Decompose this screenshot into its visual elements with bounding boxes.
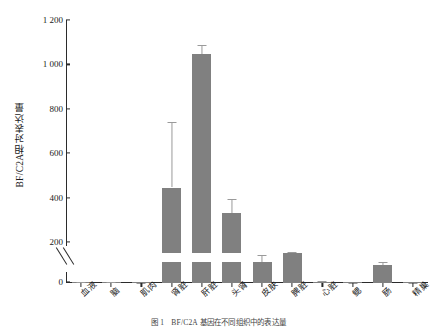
error-bar [171,122,172,187]
y-axis-tick-label: 600 [50,148,67,158]
error-bar-cap [378,262,387,263]
bar-group[interactable] [102,21,121,283]
y-axis-line [66,20,67,283]
bar [373,265,392,283]
figure-caption: 图 1 BF/C2A 基因在不同组织中的表达量 [0,316,437,327]
y-axis-tick: 1 000 [43,59,66,69]
y-axis-title-text: BF/C2A相对表达量 [13,102,27,188]
error-bar-cap [258,255,267,256]
bar-group[interactable] [253,21,272,283]
y-axis-tick: 1 200 [43,15,66,25]
error-bar-cap [227,199,236,200]
error-bar-cap [167,122,176,123]
y-axis-tick-mark [66,153,70,154]
bar-group[interactable] [132,21,151,283]
y-axis-tick-label: 800 [50,104,67,114]
bar-group[interactable] [343,21,362,283]
y-axis-tick-mark [66,241,70,242]
error-bar-cap [288,252,297,253]
y-axis-tick-mark [66,197,70,198]
plot-area: 02004006008001 0001 200 血液脑肌肉肾脏肝脏头肾皮肤脾脏心… [66,20,428,283]
x-axis-label-9: 鳃 [349,283,364,298]
bar-group[interactable] [283,21,302,283]
y-axis-tick: 800 [50,104,67,114]
bar-upper-segment [162,188,181,254]
x-axis-label-1: 脑 [107,283,122,298]
y-axis-tick: 400 [50,193,67,203]
error-bar-cap [197,45,206,46]
bar-group[interactable] [222,21,241,283]
y-axis-tick: 600 [50,148,67,158]
bar-upper-segment [192,54,211,253]
y-axis-tick-mark [66,108,70,109]
error-bar [201,45,202,54]
y-axis-tick: 0 [59,277,67,287]
y-axis-tick-label: 0 [59,277,67,287]
bar-upper-segment [222,213,241,253]
bar-group[interactable] [313,21,332,283]
y-axis-tick-mark [66,281,70,282]
bar-group[interactable] [72,21,91,283]
bar-group[interactable] [162,21,181,283]
y-axis-title: BF/C2A相对表达量 [10,0,30,290]
y-axis-tick-label: 400 [50,193,67,203]
y-axis-tick-label: 1 200 [43,15,66,25]
y-axis-tick-mark [66,64,70,65]
x-axis-label-10: 肠 [379,283,394,298]
y-axis-tick-mark [66,19,70,20]
bar-group[interactable] [192,21,211,283]
error-bar [231,199,232,213]
bar-group[interactable] [373,21,392,283]
y-axis-tick-label: 1 000 [43,59,66,69]
bar-group[interactable] [403,21,422,283]
